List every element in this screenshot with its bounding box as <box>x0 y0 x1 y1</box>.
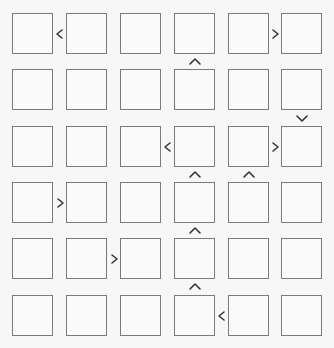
grid-cell-r4-c4[interactable] <box>228 238 269 279</box>
grid-cell-r1-c2[interactable] <box>120 69 161 110</box>
grid-cell-r1-c4[interactable] <box>228 69 269 110</box>
grid-cell-r1-c3[interactable] <box>174 69 215 110</box>
greater-than-icon <box>268 27 282 41</box>
grid-cell-r1-c0[interactable] <box>12 69 53 110</box>
grid-cell-r3-c4[interactable] <box>228 182 269 223</box>
caret-up-icon <box>188 55 202 69</box>
greater-than-icon <box>107 252 121 266</box>
grid-cell-r4-c0[interactable] <box>12 238 53 279</box>
caret-up-icon <box>242 168 256 182</box>
less-than-icon <box>215 309 229 323</box>
caret-up-icon <box>188 280 202 294</box>
grid-cell-r1-c1[interactable] <box>66 69 107 110</box>
grid-cell-r4-c1[interactable] <box>66 238 107 279</box>
grid-cell-r3-c3[interactable] <box>174 182 215 223</box>
grid-cell-r0-c3[interactable] <box>174 13 215 54</box>
grid-cell-r4-c2[interactable] <box>120 238 161 279</box>
grid-cell-r5-c2[interactable] <box>120 295 161 336</box>
grid-cell-r2-c0[interactable] <box>12 126 53 167</box>
grid-cell-r4-c3[interactable] <box>174 238 215 279</box>
grid-cell-r2-c3[interactable] <box>174 126 215 167</box>
puzzle-board <box>0 0 334 348</box>
greater-than-icon <box>268 140 282 154</box>
grid-cell-r1-c5[interactable] <box>281 69 322 110</box>
caret-up-icon <box>188 224 202 238</box>
grid-cell-r5-c1[interactable] <box>66 295 107 336</box>
grid-cell-r3-c5[interactable] <box>281 182 322 223</box>
grid-cell-r5-c5[interactable] <box>281 295 322 336</box>
less-than-icon <box>53 27 67 41</box>
grid-cell-r2-c5[interactable] <box>281 126 322 167</box>
grid-cell-r2-c1[interactable] <box>66 126 107 167</box>
grid-cell-r0-c5[interactable] <box>281 13 322 54</box>
grid-cell-r5-c0[interactable] <box>12 295 53 336</box>
grid-cell-r3-c1[interactable] <box>66 182 107 223</box>
grid-cell-r2-c2[interactable] <box>120 126 161 167</box>
grid-cell-r0-c2[interactable] <box>120 13 161 54</box>
caret-down-icon <box>295 111 309 125</box>
caret-up-icon <box>188 168 202 182</box>
less-than-icon <box>161 140 175 154</box>
grid-cell-r3-c0[interactable] <box>12 182 53 223</box>
grid-cell-r5-c4[interactable] <box>228 295 269 336</box>
grid-cell-r4-c5[interactable] <box>281 238 322 279</box>
grid-cell-r3-c2[interactable] <box>120 182 161 223</box>
grid-cell-r2-c4[interactable] <box>228 126 269 167</box>
grid-cell-r0-c1[interactable] <box>66 13 107 54</box>
greater-than-icon <box>53 196 67 210</box>
grid-cell-r5-c3[interactable] <box>174 295 215 336</box>
grid-cell-r0-c0[interactable] <box>12 13 53 54</box>
grid-cell-r0-c4[interactable] <box>228 13 269 54</box>
